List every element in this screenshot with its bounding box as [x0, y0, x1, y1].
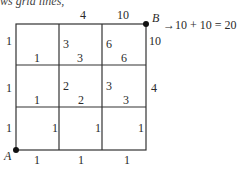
row3-vertical-2: 1 — [95, 122, 101, 134]
bottom-label-1: 1 — [34, 154, 40, 166]
top-label-2: 4 — [80, 9, 86, 21]
row1-vertical-2: 6 — [106, 38, 112, 50]
row1-vertical-1: 3 — [63, 38, 69, 50]
row1-horizontal-1: 1 — [34, 52, 40, 64]
point-b-label: B — [152, 12, 159, 24]
right-label-2: 4 — [151, 82, 157, 94]
left-label-3: 1 — [6, 122, 12, 134]
row3-vertical-1: 1 — [52, 122, 58, 134]
row2-horizontal-1: 1 — [34, 94, 40, 106]
right-label-1: 10 — [149, 35, 161, 47]
left-label-1: 1 — [6, 35, 12, 47]
result-text: →10 + 10 = 20 — [163, 19, 237, 31]
point-a-label: A — [4, 150, 11, 162]
left-label-2: 1 — [6, 82, 12, 94]
row1-horizontal-2: 3 — [77, 52, 83, 64]
row3-vertical-3: 1 — [138, 122, 144, 134]
top-label-3: 10 — [117, 9, 129, 21]
point-b-dot — [143, 21, 149, 27]
bottom-label-2: 1 — [78, 154, 84, 166]
row2-horizontal-3: 3 — [123, 94, 129, 106]
row2-vertical-1: 2 — [63, 80, 69, 92]
row2-horizontal-2: 2 — [78, 94, 84, 106]
point-a-dot — [13, 147, 19, 153]
row1-horizontal-3: 6 — [121, 52, 127, 64]
bottom-label-3: 1 — [124, 154, 130, 166]
row2-vertical-2: 3 — [106, 80, 112, 92]
